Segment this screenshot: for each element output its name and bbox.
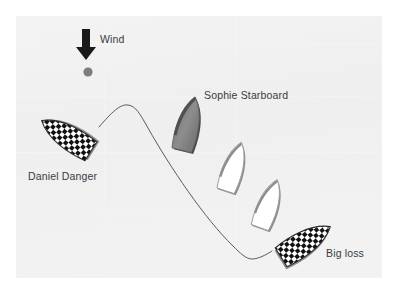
sailing-diagram: Wind Daniel Danger Sophie Starboard Big …: [0, 0, 398, 295]
boat-label-daniel-danger: Daniel Danger: [28, 170, 97, 182]
diagram-canvas: Wind Daniel Danger Sophie Starboard Big …: [0, 0, 398, 295]
wind-label: Wind: [100, 33, 125, 45]
racing-mark-buoy: [83, 67, 92, 76]
boat-label-big-loss: Big loss: [326, 247, 364, 259]
boat-label-sophie-starboard: Sophie Starboard: [204, 89, 288, 101]
